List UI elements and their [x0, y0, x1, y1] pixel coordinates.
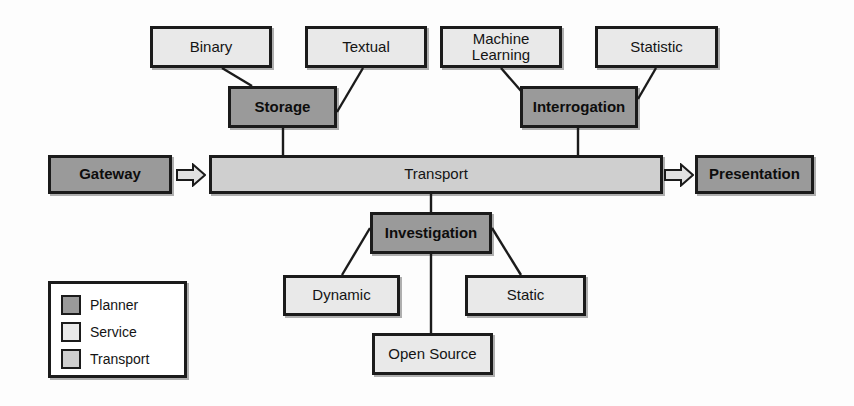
node-label-interrogation: Interrogation [530, 99, 629, 115]
node-statistic[interactable]: Statistic [595, 26, 718, 68]
node-static[interactable]: Static [465, 275, 586, 316]
node-label-machine: Machine Learning [443, 31, 559, 63]
arrow-glyph [177, 165, 205, 186]
node-label-binary: Binary [187, 39, 236, 55]
node-dynamic[interactable]: Dynamic [283, 275, 400, 316]
node-label-opensource: Open Source [385, 346, 479, 362]
edge-statistic-to-interrogation [638, 68, 656, 99]
legend-label-service: Service [90, 324, 137, 340]
edge-binary-to-storage [222, 68, 252, 86]
flow-arrow-right-transport-to-presentation [664, 163, 694, 187]
legend-box: PlannerServiceTransport [48, 281, 187, 378]
node-label-transport: Transport [401, 166, 471, 182]
legend-row-planner: Planner [61, 291, 184, 318]
edge-investigation-to-dynamic [342, 228, 370, 275]
node-label-investigation: Investigation [382, 225, 481, 241]
node-textual[interactable]: Textual [305, 26, 427, 68]
legend-swatch-service [61, 322, 81, 342]
flow-arrow-right-gateway-to-transport [176, 163, 206, 187]
node-machine[interactable]: Machine Learning [440, 26, 562, 68]
legend-swatch-transport [61, 349, 81, 369]
node-label-storage: Storage [252, 99, 314, 115]
node-transport[interactable]: Transport [209, 155, 663, 194]
legend-swatch-planner [61, 295, 81, 315]
legend-row-transport: Transport [61, 345, 184, 372]
node-storage[interactable]: Storage [228, 86, 337, 128]
node-opensource[interactable]: Open Source [372, 333, 493, 375]
node-label-statistic: Statistic [627, 39, 686, 55]
node-label-textual: Textual [339, 39, 393, 55]
node-binary[interactable]: Binary [150, 26, 272, 68]
node-investigation[interactable]: Investigation [370, 212, 492, 254]
node-gateway[interactable]: Gateway [48, 155, 172, 194]
arrow-glyph [665, 165, 693, 186]
legend-row-service: Service [61, 318, 184, 345]
legend-label-transport: Transport [90, 351, 149, 367]
node-label-static: Static [504, 287, 548, 303]
node-presentation[interactable]: Presentation [695, 155, 814, 194]
node-label-gateway: Gateway [76, 166, 144, 182]
node-interrogation[interactable]: Interrogation [520, 86, 638, 128]
edge-textual-to-storage [337, 68, 363, 112]
edge-investigation-to-static [492, 228, 521, 275]
legend-label-planner: Planner [90, 297, 138, 313]
diagram-canvas: BinaryTextualMachine LearningStatisticSt… [0, 0, 854, 406]
node-label-presentation: Presentation [706, 166, 803, 182]
node-label-dynamic: Dynamic [309, 287, 373, 303]
